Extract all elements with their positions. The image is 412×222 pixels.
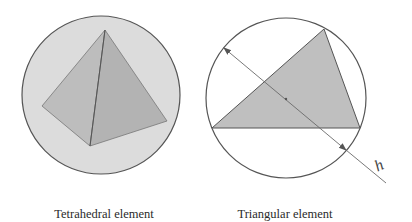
diameter-label: h bbox=[372, 156, 386, 175]
figure-canvas: h bbox=[0, 0, 412, 222]
tetrahedral-caption: Tetrahedral element bbox=[54, 207, 153, 222]
tetrahedral-figure bbox=[22, 16, 180, 174]
center-dot bbox=[285, 98, 287, 100]
triangular-figure: h bbox=[206, 18, 386, 183]
triangular-caption: Triangular element bbox=[237, 207, 332, 222]
